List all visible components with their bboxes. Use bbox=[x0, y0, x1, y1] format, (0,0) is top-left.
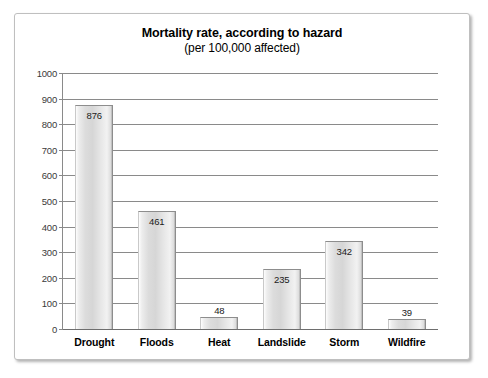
y-axis-tick-mark bbox=[59, 201, 63, 202]
bar-value-label: 235 bbox=[264, 274, 300, 285]
y-axis-tick-label: 200 bbox=[42, 272, 57, 283]
y-axis-tick-label: 800 bbox=[42, 119, 57, 130]
chart-subtitle: (per 100,000 affected) bbox=[15, 41, 469, 56]
gridline bbox=[63, 278, 438, 279]
bar-value-label: 461 bbox=[139, 216, 175, 227]
y-axis-tick-mark bbox=[59, 278, 63, 279]
gridline bbox=[63, 201, 438, 202]
y-axis-tick-label: 900 bbox=[42, 93, 57, 104]
bar-wildfire[interactable]: 39 bbox=[388, 319, 426, 329]
bar-heat[interactable]: 48 bbox=[200, 317, 238, 329]
x-axis-category-label: Landslide bbox=[249, 336, 315, 348]
y-axis-tick-mark bbox=[59, 252, 63, 253]
bar-group: 342Storm bbox=[325, 73, 363, 329]
y-axis-tick-mark bbox=[59, 303, 63, 304]
y-axis-tick-label: 100 bbox=[42, 298, 57, 309]
y-axis-tick-mark bbox=[59, 99, 63, 100]
gridline bbox=[63, 175, 438, 176]
x-axis-category-label: Storm bbox=[311, 336, 377, 348]
bar-group: 39Wildfire bbox=[388, 73, 426, 329]
y-axis-tick-label: 0 bbox=[52, 324, 57, 335]
x-axis-category-label: Heat bbox=[186, 336, 252, 348]
y-axis-tick-label: 400 bbox=[42, 221, 57, 232]
bar-landslide[interactable]: 235 bbox=[263, 269, 301, 329]
y-axis-tick-label: 700 bbox=[42, 144, 57, 155]
page-title: Mortality rate, according to hazard bbox=[15, 26, 469, 41]
bar-value-label: 876 bbox=[76, 110, 112, 121]
gridline bbox=[63, 252, 438, 253]
bar-value-label: 39 bbox=[389, 307, 425, 318]
gridline bbox=[63, 303, 438, 304]
bar-group: 876Drought bbox=[75, 73, 113, 329]
bar-drought[interactable]: 876 bbox=[75, 105, 113, 329]
bar-value-label: 342 bbox=[326, 246, 362, 257]
y-axis-tick-mark bbox=[59, 175, 63, 176]
y-axis-tick-label: 300 bbox=[42, 247, 57, 258]
gridline bbox=[63, 227, 438, 228]
bar-group: 461Floods bbox=[138, 73, 176, 329]
gridline bbox=[63, 329, 438, 330]
gridline bbox=[63, 73, 438, 74]
y-axis-tick-label: 500 bbox=[42, 196, 57, 207]
bar-floods[interactable]: 461 bbox=[138, 211, 176, 329]
bar-value-label: 48 bbox=[201, 305, 237, 316]
bar-storm[interactable]: 342 bbox=[325, 241, 363, 329]
y-axis-tick-label: 1000 bbox=[37, 68, 57, 79]
y-axis-tick-mark bbox=[59, 227, 63, 228]
plot-area: 01002003004005006007008009001000 876Drou… bbox=[63, 73, 438, 329]
y-axis-tick-mark bbox=[59, 329, 63, 330]
y-axis-tick-mark bbox=[59, 73, 63, 74]
gridline bbox=[63, 150, 438, 151]
x-axis-category-label: Wildfire bbox=[374, 336, 440, 348]
bar-group: 235Landslide bbox=[263, 73, 301, 329]
chart-title-block: Mortality rate, according to hazard (per… bbox=[15, 26, 469, 56]
gridline bbox=[63, 124, 438, 125]
bar-group: 48Heat bbox=[200, 73, 238, 329]
y-axis-tick-mark bbox=[59, 124, 63, 125]
gridline bbox=[63, 99, 438, 100]
x-axis-category-label: Floods bbox=[124, 336, 190, 348]
x-axis-category-label: Drought bbox=[61, 336, 127, 348]
y-axis-tick-mark bbox=[59, 150, 63, 151]
y-axis-tick-label: 600 bbox=[42, 170, 57, 181]
chart-frame: Mortality rate, according to hazard (per… bbox=[14, 13, 470, 360]
